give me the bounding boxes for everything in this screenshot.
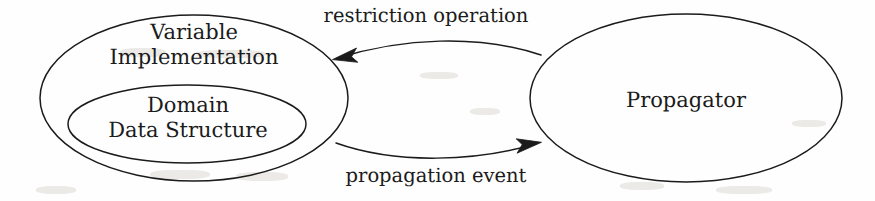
edge-restriction-operation-arrowhead bbox=[333, 48, 358, 62]
ellipse-domain-data-structure bbox=[68, 85, 306, 163]
diagram-canvas bbox=[0, 0, 875, 201]
ellipse-propagator bbox=[530, 14, 842, 182]
ellipse-variable-implementation bbox=[40, 15, 348, 181]
edge-propagation-event-line bbox=[336, 143, 536, 158]
edge-restriction-operation-line bbox=[338, 41, 541, 58]
diagram-figure: Variable Implementation Domain Data Stru… bbox=[0, 0, 875, 201]
edge-propagation-event-arrowhead bbox=[516, 139, 541, 153]
